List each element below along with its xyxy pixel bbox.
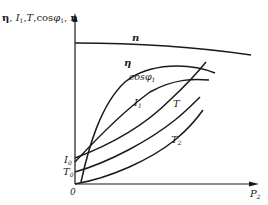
label-cosphi1: cosφ1 (129, 71, 155, 83)
label-origin: 0 (70, 187, 76, 197)
x-axis-label: P2 (249, 188, 261, 200)
label-T: T (173, 98, 181, 109)
curve-n (75, 43, 251, 55)
x-axis-arrow-icon (249, 182, 259, 187)
label-eta: η (124, 57, 131, 68)
curve-T2 (75, 110, 203, 184)
axes (73, 13, 260, 187)
label-T0: T0 (63, 166, 74, 178)
label-I0: I0 (63, 154, 72, 166)
chart: η, I1,T,cosφ1, n n η cosφ1 I1 T T2 I0 T0… (0, 0, 268, 205)
label-n: n (132, 32, 139, 43)
y-axis-label: η, I1,T,cosφ1, n (2, 12, 78, 24)
curve-eta (81, 66, 215, 182)
curves (75, 43, 251, 184)
